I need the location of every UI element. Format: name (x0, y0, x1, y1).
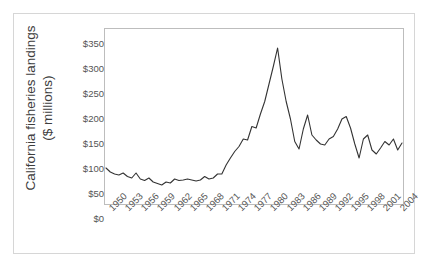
y-tick-label-200: $200 (60, 114, 104, 124)
y-tick-label-250: $250 (60, 89, 104, 99)
data-line-california-fisheries-landings (106, 48, 402, 185)
x-axis-tick-labels: 1950195319561959196219651968197119741977… (104, 206, 406, 252)
y-tick-label-0: $0 (60, 214, 104, 224)
y-tick-label-100: $100 (60, 164, 104, 174)
plot-area (104, 28, 404, 205)
y-axis-tick-labels: $350$300$250$200$150$100$50$0 (60, 29, 104, 209)
y-tick-label-150: $150 (60, 139, 104, 149)
y-tick-label-300: $300 (60, 64, 104, 74)
plot-svg (105, 29, 403, 204)
chart-figure: California fisheries landings ($ million… (13, 13, 415, 254)
y-tick-label-50: $50 (60, 189, 104, 199)
y-axis-title-line-2: ($ millions) (40, 15, 57, 201)
y-axis-title-line-1: California fisheries landings (23, 15, 40, 201)
y-tick-label-350: $350 (60, 39, 104, 49)
